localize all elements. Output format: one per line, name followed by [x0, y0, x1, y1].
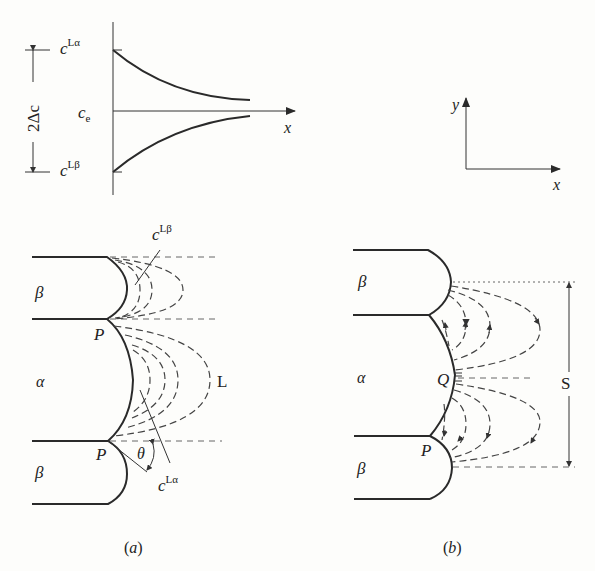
beta-top-label: β	[34, 283, 44, 302]
liquid-label: L	[217, 372, 227, 391]
theta-label: θ	[137, 445, 145, 462]
x-direction-label: x	[552, 176, 560, 193]
svg-text:cLα: cLα	[60, 36, 80, 58]
svg-text:cLβ: cLβ	[152, 222, 172, 244]
theta-angle-arc	[147, 444, 154, 470]
point-q-label: Q	[437, 370, 449, 389]
diffusion-flow-lines-lower	[442, 384, 540, 462]
beta-lamella-top	[353, 250, 451, 315]
point-p-label: P	[420, 441, 431, 460]
alpha-lamella	[107, 319, 133, 441]
svg-text:cLα: cLα	[158, 473, 178, 495]
eutectic-growth-diagram: 2Δc cLα ce cLβ x y x	[0, 0, 595, 571]
beta-lamella-bottom	[32, 441, 127, 504]
panel-a-caption: (a)	[124, 539, 143, 557]
beta-top-label: β	[357, 272, 367, 291]
beta-bottom-label: β	[34, 463, 44, 482]
svg-text:cLβ: cLβ	[60, 158, 80, 180]
c-beta-curve	[113, 116, 250, 172]
spacing-label: S	[561, 374, 570, 393]
beta-lamella-top	[32, 257, 127, 319]
concentration-profile-plot: 2Δc cLα ce cLβ x	[24, 22, 295, 195]
junction-p-bottom: P	[95, 445, 106, 464]
panel-b-caption: (b)	[443, 539, 462, 557]
c-alpha-curve	[113, 50, 250, 100]
y-direction-label: y	[450, 96, 460, 114]
alpha-label: α	[357, 369, 366, 386]
span-label: 2Δc	[24, 105, 43, 132]
alpha-isoconcentration-contours	[114, 326, 210, 436]
x-axis-label: x	[283, 119, 291, 136]
junction-p-top: P	[93, 325, 104, 344]
panel-b: β α β Q P S (b)	[353, 250, 575, 557]
panel-a: β α β P P L θ cLβ cLα (a)	[32, 222, 227, 557]
axes-legend: y x	[450, 96, 560, 193]
alpha-label: α	[36, 373, 45, 390]
beta-lamella-bottom-upper	[354, 436, 452, 499]
diffusion-flow-lines-upper	[442, 286, 540, 370]
svg-text:ce: ce	[78, 103, 91, 124]
beta-bottom-label: β	[356, 459, 366, 478]
svg-text:2Δc: 2Δc	[24, 105, 43, 132]
